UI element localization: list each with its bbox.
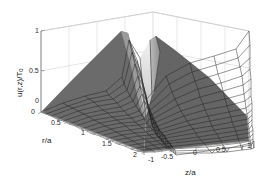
plot-canvas — [0, 0, 266, 187]
x-axis-tick-neg1: -1 — [148, 156, 154, 163]
surface-mesh — [41, 31, 254, 155]
x-axis-tick-neg0p5: -0.5 — [161, 153, 173, 160]
r-axis-tick-2: 2 — [133, 151, 137, 158]
x-axis-tick-0p5: 0.5 — [216, 146, 226, 153]
z-axis-tick-0: 0 — [35, 97, 39, 104]
x-axis-tick-0: 0 — [193, 149, 197, 156]
z-axis-tick-0p5: 0.5 — [29, 67, 39, 74]
r-axis-tick-0: 0 — [31, 108, 35, 115]
surface-plot-figure: 1 0.5 0 u(r,z)/T0 0 0.5 1 1.5 2 r/a -1 -… — [0, 0, 266, 187]
z-axis-title-subscript: 0 — [18, 68, 24, 71]
r-axis-title: r/a — [42, 137, 51, 145]
z-axis-title: u(r,z)/T0 — [16, 68, 24, 97]
x-axis-tick-1: 1 — [247, 142, 251, 149]
r-axis-tick-1: 1 — [81, 129, 85, 136]
z-axis-title-text: u(r,z)/T — [15, 72, 24, 97]
r-axis-tick-0p5: 0.5 — [51, 119, 61, 126]
x-axis-title: z/a — [185, 169, 196, 177]
r-axis-tick-1p5: 1.5 — [102, 140, 112, 147]
z-axis-tick-1: 1 — [35, 27, 39, 34]
